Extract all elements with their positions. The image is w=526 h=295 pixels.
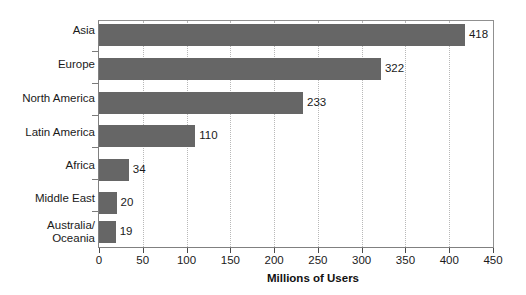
bar: [99, 125, 195, 147]
bar-row: 233: [99, 92, 493, 114]
bar-value-label: 322: [381, 63, 404, 75]
x-axis-tick-300: [362, 248, 363, 253]
bar-value-label: 110: [195, 130, 217, 142]
bar-row: 418: [99, 24, 493, 46]
bar: [99, 221, 116, 243]
bar-chart: Asia Europe North America Latin America …: [0, 0, 526, 295]
bar: [99, 24, 465, 46]
bar: [99, 159, 129, 181]
y-axis-label-1: Europe: [3, 58, 95, 71]
x-axis-tick-label-0: 0: [96, 254, 102, 267]
plot-inner: 418322233110342019: [99, 21, 493, 247]
y-axis-label-5: Middle East: [3, 192, 95, 205]
x-axis-tick-label-150: 150: [221, 254, 240, 267]
y-axis-label-0: Asia: [3, 24, 95, 37]
y-axis-label-2: North America: [3, 92, 95, 105]
plot-area: 418322233110342019: [98, 20, 494, 248]
x-axis-tick-50: [143, 248, 144, 253]
bar-row: 20: [99, 192, 493, 214]
x-axis-tick-150: [230, 248, 231, 253]
x-axis-tick-label-350: 350: [396, 254, 415, 267]
y-axis-label-4: Africa: [3, 159, 95, 172]
x-axis-tick-400: [449, 248, 450, 253]
bar: [99, 92, 303, 114]
bar: [99, 192, 117, 214]
bar-value-label: 20: [117, 197, 134, 209]
y-axis-category-labels: Asia Europe North America Latin America …: [0, 20, 95, 248]
x-axis-tick-label-250: 250: [308, 254, 327, 267]
y-axis-label-6: Australia/ Oceania: [3, 219, 95, 244]
x-axis-tick-label-300: 300: [352, 254, 371, 267]
bar-value-label: 34: [129, 164, 146, 176]
bar-row: 110: [99, 125, 493, 147]
bar-value-label: 418: [465, 29, 488, 41]
x-axis-tick-label-50: 50: [136, 254, 149, 267]
x-axis-tick-200: [274, 248, 275, 253]
x-axis-title: Millions of Users: [0, 272, 526, 285]
bar: [99, 58, 381, 80]
x-axis-tick-450: [493, 248, 494, 253]
x-axis-tick-label-400: 400: [440, 254, 459, 267]
x-axis-tick-350: [405, 248, 406, 253]
x-axis-tick-label-200: 200: [265, 254, 284, 267]
y-axis-label-3: Latin America: [3, 126, 95, 139]
x-axis-tick-0: [99, 248, 100, 253]
x-axis-tick-250: [318, 248, 319, 253]
bar-row: 19: [99, 221, 493, 243]
bar-value-label: 19: [116, 226, 133, 238]
x-axis-title-text: Millions of Users: [267, 272, 359, 285]
bar-row: 34: [99, 159, 493, 181]
x-axis-tick-100: [187, 248, 188, 253]
bar-value-label: 233: [303, 97, 326, 109]
x-axis-tick-label-100: 100: [177, 254, 196, 267]
x-axis-tick-label-450: 450: [483, 254, 502, 267]
bar-row: 322: [99, 58, 493, 80]
